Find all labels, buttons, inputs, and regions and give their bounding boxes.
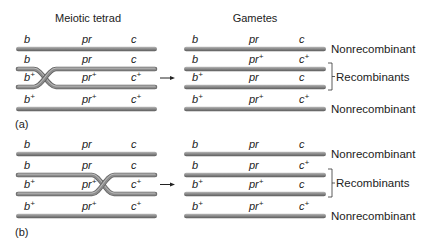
gene-label-b: b+ — [24, 199, 35, 212]
gene-label-pr: pr+ — [81, 92, 97, 105]
gamete-chromatid-3 — [184, 85, 326, 89]
gene-label-b: b — [192, 33, 198, 45]
bracket-icon — [328, 169, 335, 197]
gene-label-c: c — [131, 159, 137, 171]
gene-label-pr: pr — [248, 138, 260, 150]
gene-label-b: b+ — [192, 199, 203, 212]
label-recombinants: Recombinants — [336, 177, 410, 189]
title-meiotic-tetrad: Meiotic tetrad — [55, 12, 121, 24]
panel-label: (a) — [15, 118, 28, 130]
gene-label-b: b+ — [24, 177, 35, 190]
gene-label-pr: pr+ — [248, 177, 264, 190]
tetrad-chromatid-4 — [16, 107, 157, 111]
gamete-chromatid-3 — [184, 192, 326, 196]
panel-a: bprcbprcb+pr+c+b+pr+c+bprcbpr+c+b+prcb+p… — [15, 33, 416, 130]
crossover-diagram: Meiotic tetrad Gametes bprcbprcb+pr+c+b+… — [0, 0, 424, 248]
bracket-icon — [328, 63, 335, 90]
gene-label-c: c — [299, 71, 305, 83]
gene-label-pr: pr+ — [248, 199, 264, 212]
gene-label-b: b+ — [192, 92, 203, 105]
label-nonrecombinant-top: Nonrecombinant — [331, 148, 416, 160]
gamete-chromatid-4 — [184, 214, 326, 218]
gene-label-b: b — [24, 33, 30, 45]
gene-label-b: b — [192, 138, 198, 150]
title-gametes: Gametes — [233, 12, 278, 24]
gene-label-c: c — [299, 138, 305, 150]
tetrad-chromatid-1 — [16, 152, 157, 156]
gene-label-c: c — [131, 53, 137, 65]
gene-label-pr: pr+ — [81, 70, 97, 83]
gene-label-pr: pr+ — [248, 92, 264, 105]
label-recombinants: Recombinants — [336, 71, 410, 83]
panel-b: bprcbprcb+pr+c+b+pr+c+bprcbprc+b+pr+cb+p… — [15, 138, 416, 238]
label-nonrecombinant-bottom: Nonrecombinant — [331, 210, 416, 222]
tetrad-chromatid-1 — [16, 47, 157, 51]
gene-label-c: c — [131, 138, 137, 150]
gene-label-pr: pr — [81, 33, 93, 45]
gene-label-pr: pr+ — [81, 199, 97, 212]
gene-label-c: c — [299, 33, 305, 45]
gene-label-b: b+ — [192, 70, 203, 83]
tetrad-chromatid-4 — [16, 214, 157, 218]
gene-label-b: b — [192, 159, 198, 171]
gene-label-b: b — [24, 138, 30, 150]
gene-label-b: b+ — [24, 70, 35, 83]
gene-label-pr: pr+ — [248, 52, 264, 65]
gene-label-pr: pr — [248, 33, 260, 45]
gene-label-c: c+ — [299, 92, 310, 105]
gene-label-c: c+ — [131, 199, 142, 212]
gamete-chromatid-4 — [184, 107, 326, 111]
gene-label-c: c+ — [299, 52, 310, 65]
panel-label: (b) — [15, 226, 28, 238]
gene-label-c: c+ — [131, 177, 142, 190]
gene-label-c: c+ — [131, 70, 142, 83]
gene-label-pr: pr — [248, 159, 260, 171]
label-nonrecombinant-top: Nonrecombinant — [331, 43, 416, 55]
gamete-chromatid-1 — [184, 47, 326, 51]
gene-label-pr: pr — [248, 71, 260, 83]
gene-label-b: b — [24, 53, 30, 65]
gene-label-c: c — [299, 178, 305, 190]
gene-label-c: c+ — [299, 199, 310, 212]
label-nonrecombinant-bottom: Nonrecombinant — [331, 103, 416, 115]
gene-label-b: b+ — [24, 92, 35, 105]
gene-label-c: c+ — [299, 158, 310, 171]
gene-label-pr: pr — [81, 159, 93, 171]
gamete-chromatid-2 — [184, 173, 326, 177]
gene-label-b: b — [24, 159, 30, 171]
gene-label-b: b+ — [192, 177, 203, 190]
gene-label-c: c+ — [131, 92, 142, 105]
gene-label-c: c — [131, 33, 137, 45]
gene-label-b: b — [192, 53, 198, 65]
gene-label-pr: pr — [81, 138, 93, 150]
gene-label-pr: pr — [81, 53, 93, 65]
gene-label-pr: pr+ — [81, 177, 97, 190]
gamete-chromatid-1 — [184, 152, 326, 156]
